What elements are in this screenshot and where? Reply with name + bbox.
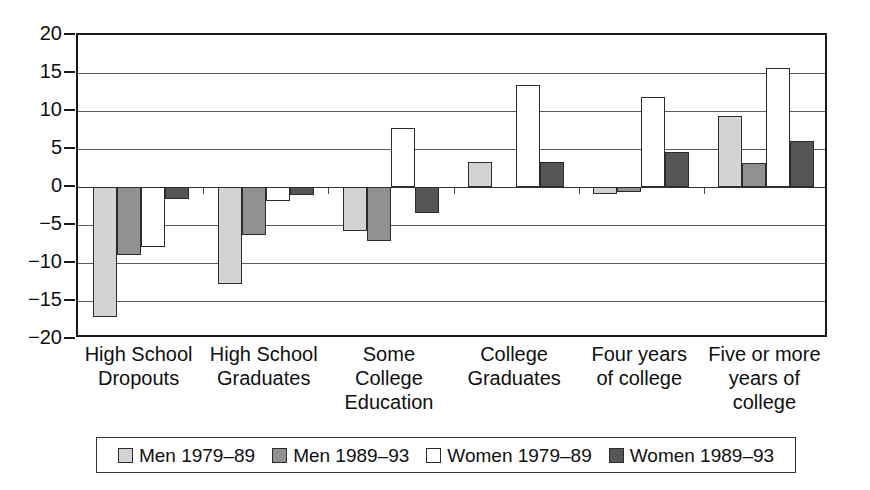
bar <box>367 187 391 241</box>
y-axis-tick-label: 0 <box>51 175 62 195</box>
y-axis-tick-label: 20 <box>40 23 62 43</box>
bar <box>516 85 540 187</box>
bar <box>266 187 290 201</box>
chart-legend: Men 1979–89Men 1989–93Women 1979–89Women… <box>96 437 796 473</box>
x-axis-category-label-line: college <box>702 390 827 414</box>
y-axis-tick-label: 10 <box>40 99 62 119</box>
legend-item-label: Women 1989–93 <box>630 446 774 465</box>
y-axis-tick-mark <box>64 71 75 73</box>
x-axis-category-label-line: Some College <box>326 342 451 390</box>
bar <box>218 187 242 284</box>
bar <box>343 187 367 231</box>
y-axis-tick-mark <box>64 185 75 187</box>
x-axis-category-label-line: Graduates <box>201 366 326 390</box>
y-axis-tick-mark <box>64 109 75 111</box>
y-axis-tick-mark <box>64 147 75 149</box>
bar <box>242 187 266 235</box>
bar <box>165 187 189 199</box>
legend-item[interactable]: Women 1989–93 <box>609 446 774 465</box>
legend-swatch-icon <box>426 448 441 463</box>
x-axis-category-label: Five or moreyears ofcollege <box>702 342 827 414</box>
x-axis-category-label-line: of college <box>577 366 702 390</box>
x-axis-category-label-line: College <box>452 342 577 366</box>
x-axis-category-label-line: Graduates <box>452 366 577 390</box>
y-axis-tick-label: 15 <box>40 61 62 81</box>
x-axis-category-label: Some CollegeEducation <box>326 342 451 414</box>
bar <box>415 187 439 213</box>
bar <box>766 68 790 187</box>
bar <box>742 163 766 187</box>
y-axis-tick-label: −20 <box>28 327 62 347</box>
y-axis-tick-labels: 20151050−5−10−15−20 <box>0 33 62 337</box>
bar-chart: 20151050−5−10−15−20 High SchoolDropoutsH… <box>0 0 870 490</box>
legend-item-label: Men 1979–89 <box>139 446 255 465</box>
x-axis-category-label: Four yearsof college <box>577 342 702 390</box>
legend-swatch-icon <box>609 448 624 463</box>
y-axis-tick-label: 5 <box>51 137 62 157</box>
legend-swatch-icon <box>272 448 287 463</box>
x-axis-category-label: High SchoolGraduates <box>201 342 326 390</box>
legend-item-label: Women 1979–89 <box>447 446 591 465</box>
y-axis-tick-mark <box>64 223 75 225</box>
y-axis-tick-label: −10 <box>28 251 62 271</box>
x-axis-category-label-line: Four years <box>577 342 702 366</box>
x-axis-category-label-line: Five or more <box>702 342 827 366</box>
bar <box>790 141 814 187</box>
legend-swatch-icon <box>118 448 133 463</box>
x-axis-category-label-line: High School <box>201 342 326 366</box>
y-axis-tick-mark <box>64 261 75 263</box>
y-axis-tick-mark <box>64 299 75 301</box>
x-axis-category-label-line: Dropouts <box>76 366 201 390</box>
bar <box>290 187 314 195</box>
x-axis-category-label: High SchoolDropouts <box>76 342 201 390</box>
plot-area <box>76 33 827 337</box>
bar <box>718 116 742 187</box>
bar <box>641 97 665 187</box>
bar <box>93 187 117 317</box>
y-axis-tick-mark <box>64 337 75 339</box>
bar <box>391 128 415 187</box>
x-axis-category-label: CollegeGraduates <box>452 342 577 390</box>
bar <box>468 162 492 187</box>
x-axis-category-label-line: years of <box>702 366 827 390</box>
x-axis-category-labels: High SchoolDropoutsHigh SchoolGraduatesS… <box>76 342 827 432</box>
legend-item[interactable]: Men 1989–93 <box>272 446 409 465</box>
y-axis-tick-label: −15 <box>28 289 62 309</box>
bars-layer <box>78 35 825 335</box>
x-axis-category-label-line: High School <box>76 342 201 366</box>
y-axis-tick-label: −5 <box>39 213 62 233</box>
bar <box>540 162 564 187</box>
bar <box>117 187 141 255</box>
legend-item[interactable]: Men 1979–89 <box>118 446 255 465</box>
y-axis-tick-marks <box>64 33 76 337</box>
legend-item[interactable]: Women 1979–89 <box>426 446 591 465</box>
legend-item-label: Men 1989–93 <box>293 446 409 465</box>
bar <box>593 187 617 194</box>
y-axis-tick-mark <box>64 33 75 35</box>
x-axis-category-label-line: Education <box>326 390 451 414</box>
bar <box>141 187 165 247</box>
bar <box>617 187 641 192</box>
bar <box>665 152 689 187</box>
